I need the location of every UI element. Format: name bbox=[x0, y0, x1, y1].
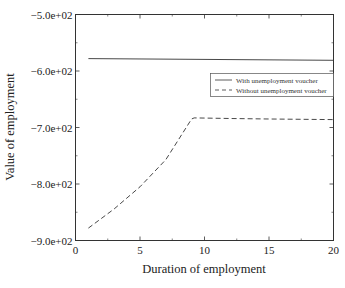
x-tick-label: 10 bbox=[199, 244, 211, 256]
y-tick-label: −7.0e+02 bbox=[30, 122, 72, 134]
y-tick-label: −6.0e+02 bbox=[30, 65, 72, 77]
x-tick-label: 0 bbox=[73, 244, 79, 256]
y-tick-label: −9.0e+02 bbox=[30, 235, 72, 247]
legend-label-with-voucher: With unemployment voucher bbox=[236, 77, 318, 85]
x-tick-label: 15 bbox=[264, 244, 276, 256]
y-tick-label: −8.0e+02 bbox=[30, 178, 72, 190]
series-without-voucher bbox=[88, 118, 333, 228]
x-tick-label: 20 bbox=[328, 244, 340, 256]
x-axis-title: Duration of employment bbox=[142, 262, 266, 276]
legend: With unemployment voucher Without unempl… bbox=[211, 74, 334, 97]
x-axis: 05101520 bbox=[73, 15, 340, 256]
x-tick-label: 5 bbox=[137, 244, 143, 256]
line-chart: −5.0e+02−6.0e+02−7.0e+02−8.0e+02−9.0e+02… bbox=[0, 0, 345, 288]
series-with-voucher bbox=[88, 59, 333, 61]
y-tick-label: −5.0e+02 bbox=[30, 9, 72, 21]
y-axis-title: Value of employment bbox=[3, 73, 17, 181]
plot-area bbox=[76, 15, 334, 241]
legend-label-without-voucher: Without unemployment voucher bbox=[236, 87, 327, 95]
